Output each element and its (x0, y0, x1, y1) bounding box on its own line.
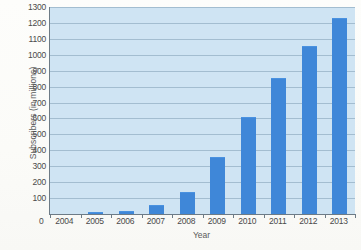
y-tick-label: 1200 (16, 18, 46, 28)
bar-series (50, 7, 355, 214)
x-tick-label: 2010 (238, 216, 256, 226)
bar (119, 211, 134, 214)
y-tick-label: 700 (16, 98, 46, 108)
bar (332, 18, 347, 214)
y-tick-label: 1000 (16, 50, 46, 60)
y-tick-label: 900 (16, 66, 46, 76)
y-tick-label: 800 (16, 82, 46, 92)
x-tick-label: 2011 (269, 216, 286, 226)
bar (180, 192, 195, 214)
x-axis-origin-label: 0 (39, 216, 44, 226)
y-tick-label: 400 (16, 145, 46, 155)
x-axis-tick-labels: 2004200520062007200820092010201120122013 (49, 216, 354, 230)
y-tick-label: 300 (16, 161, 46, 171)
x-tick-label: 2009 (208, 216, 226, 226)
bar (271, 78, 286, 214)
bar (88, 212, 103, 214)
y-tick-label: 500 (16, 129, 46, 139)
bar-chart: Subscribers (in millions) 10020030040050… (0, 0, 361, 250)
y-tick-label: 1300 (16, 2, 46, 12)
bar (302, 46, 317, 214)
plot-area (49, 7, 355, 215)
y-axis-tick-labels: 1002003004005006007008009001000110012001… (16, 0, 46, 250)
x-tickmark (355, 214, 356, 218)
bar (210, 157, 225, 214)
x-axis-title: Year (49, 230, 354, 240)
x-tick-label: 2008 (177, 216, 195, 226)
y-tick-label: 1100 (16, 34, 46, 44)
x-tick-label: 2006 (116, 216, 134, 226)
x-tick-label: 2012 (299, 216, 317, 226)
bar (241, 117, 256, 214)
x-tick-label: 2013 (330, 216, 348, 226)
x-tick-label: 2004 (55, 216, 73, 226)
bar (149, 205, 164, 214)
y-tick-label: 600 (16, 113, 46, 123)
y-tick-label: 100 (16, 193, 46, 203)
x-tick-label: 2007 (147, 216, 165, 226)
y-tick-label: 200 (16, 177, 46, 187)
x-tick-label: 2005 (86, 216, 104, 226)
